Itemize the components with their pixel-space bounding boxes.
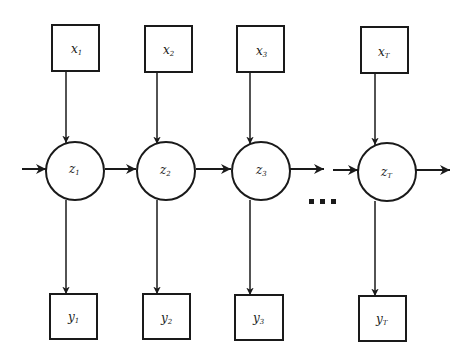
state-nodes xyxy=(46,142,416,201)
output-nodes xyxy=(50,294,406,341)
input-nodes xyxy=(52,25,408,73)
input-edges xyxy=(66,72,375,145)
input-labels: x1 x2 x3 xT xyxy=(71,42,391,60)
hmm-diagram: x1 x2 x3 xT z1 z2 z3 zT y1 y2 y3 yT xyxy=(0,0,468,360)
output-edges xyxy=(66,200,375,296)
ellipsis-icon xyxy=(309,199,336,204)
output-labels: y1 y2 y3 yT xyxy=(67,310,389,327)
